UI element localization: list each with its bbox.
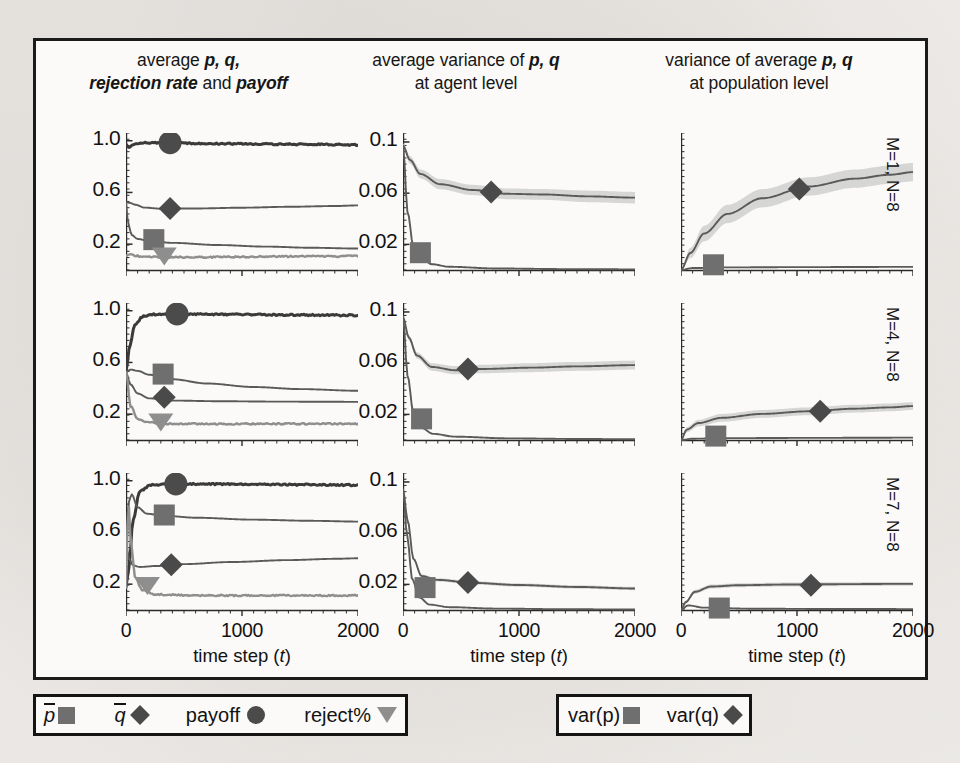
series-line-varp bbox=[403, 146, 635, 270]
legend-item-payoff: payoff bbox=[186, 704, 265, 727]
y-tick-label: 0.6 bbox=[48, 177, 120, 201]
diamond-marker-icon bbox=[456, 571, 479, 594]
x-tick-label: 1000 bbox=[752, 619, 842, 642]
diamond-marker-icon bbox=[153, 386, 176, 409]
series-line-q-bar bbox=[126, 542, 358, 567]
plot-svg bbox=[403, 303, 635, 454]
circle-marker-icon bbox=[159, 133, 182, 154]
circle-marker-icon bbox=[166, 303, 189, 325]
series-line-varp bbox=[403, 317, 635, 439]
plot-panel-r1-c0 bbox=[126, 303, 358, 440]
legend-item-q-bar: q bbox=[114, 704, 146, 727]
plot-svg bbox=[681, 473, 913, 624]
y-tick-label: 0.06 bbox=[325, 518, 397, 542]
circle-marker-icon bbox=[164, 473, 187, 495]
diamond-marker-icon bbox=[723, 705, 743, 725]
triangle-down-marker-icon bbox=[377, 707, 397, 723]
plot-panel-r2-c1 bbox=[403, 473, 635, 610]
square-marker-icon bbox=[703, 254, 724, 275]
variance-legend: var(p) var(q) bbox=[556, 694, 752, 736]
square-marker-icon bbox=[411, 408, 432, 429]
square-marker-icon bbox=[709, 598, 730, 619]
diamond-marker-icon bbox=[799, 574, 822, 597]
square-marker-icon bbox=[410, 242, 431, 263]
diamond-marker-icon bbox=[159, 197, 182, 220]
legend-item-var-p: var(p) bbox=[568, 704, 640, 727]
y-tick-label: 0.06 bbox=[325, 178, 397, 202]
x-tick-label: 2000 bbox=[868, 619, 958, 642]
x-tick-label: 1000 bbox=[197, 619, 287, 642]
plot-panel-r2-c2 bbox=[681, 473, 913, 610]
plot-svg bbox=[126, 303, 358, 454]
series-line-varq bbox=[403, 490, 635, 589]
legend-label-payoff: payoff bbox=[186, 704, 240, 727]
square-marker-icon bbox=[705, 426, 726, 447]
y-tick-label: 0.06 bbox=[325, 348, 397, 372]
y-tick-label: 0.02 bbox=[325, 569, 397, 593]
y-tick-label: 1.0 bbox=[48, 296, 120, 320]
plot-svg bbox=[681, 133, 913, 284]
series-line-payoff bbox=[126, 314, 358, 372]
legend-item-p-bar: p bbox=[44, 704, 75, 727]
plot-panel-r1-c1 bbox=[403, 303, 635, 440]
confidence-band bbox=[681, 163, 913, 270]
circle-marker-icon bbox=[247, 706, 265, 724]
plot-svg bbox=[403, 473, 635, 624]
square-marker-icon bbox=[154, 505, 175, 526]
y-tick-label: 0.2 bbox=[48, 569, 120, 593]
x-tick-label: 0 bbox=[358, 619, 448, 642]
square-marker-icon bbox=[623, 707, 640, 724]
column-header-average-pq: average p, q, rejection rate and payoff bbox=[56, 49, 321, 95]
y-tick-label: 0.1 bbox=[325, 297, 397, 321]
x-tick-label: 1000 bbox=[474, 619, 564, 642]
y-tick-label: 0.1 bbox=[325, 467, 397, 491]
legend-label-p-bar: p bbox=[44, 704, 55, 727]
square-marker-icon bbox=[153, 364, 174, 385]
y-tick-label: 0.1 bbox=[325, 127, 397, 151]
confidence-band bbox=[403, 488, 635, 590]
legend-label-reject: reject% bbox=[304, 704, 371, 727]
row-label-m7: M=7, N=8 bbox=[882, 477, 902, 552]
legend-label-var-q: var(q) bbox=[667, 704, 719, 727]
legend-item-reject: reject% bbox=[304, 704, 397, 727]
square-marker-icon bbox=[58, 707, 75, 724]
diamond-marker-icon bbox=[130, 705, 150, 725]
diamond-marker-icon bbox=[160, 553, 183, 576]
row-label-m1: M=1, N=8 bbox=[882, 137, 902, 212]
series-line-varp bbox=[403, 490, 635, 610]
plot-panel-r2-c0 bbox=[126, 473, 358, 610]
legend-label-q-bar: q bbox=[114, 704, 125, 727]
x-tick-label: 0 bbox=[81, 619, 171, 642]
y-tick-label: 0.2 bbox=[48, 399, 120, 423]
square-marker-icon bbox=[415, 577, 436, 598]
x-axis-title: time step (t) bbox=[661, 645, 933, 667]
y-tick-label: 0.02 bbox=[325, 229, 397, 253]
plot-panel-r0-c0 bbox=[126, 133, 358, 270]
legend-item-var-q: var(q) bbox=[667, 704, 740, 727]
diamond-marker-icon bbox=[809, 400, 832, 423]
plot-panel-r0-c2 bbox=[681, 133, 913, 270]
y-tick-label: 1.0 bbox=[48, 126, 120, 150]
y-tick-label: 0.2 bbox=[48, 229, 120, 253]
plot-svg bbox=[403, 133, 635, 284]
legend-label-var-p: var(p) bbox=[568, 704, 620, 727]
plot-svg bbox=[126, 473, 358, 624]
plot-svg bbox=[681, 303, 913, 454]
x-axis-title: time step (t) bbox=[383, 645, 655, 667]
plot-panel-r0-c1 bbox=[403, 133, 635, 270]
y-tick-label: 0.6 bbox=[48, 517, 120, 541]
x-axis-title: time step (t) bbox=[106, 645, 378, 667]
column-header-agent-variance: average variance of p, q at agent level bbox=[326, 49, 606, 95]
diamond-marker-icon bbox=[480, 180, 503, 203]
y-tick-label: 1.0 bbox=[48, 466, 120, 490]
column-header-population-variance: variance of average p, q at population l… bbox=[614, 49, 904, 95]
figure-frame: average p, q, rejection rate and payoff … bbox=[33, 38, 928, 680]
plot-svg bbox=[126, 133, 358, 284]
x-tick-label: 0 bbox=[636, 619, 726, 642]
series-legend: p q payoff reject% bbox=[33, 694, 408, 736]
row-label-m4: M=4, N=8 bbox=[882, 307, 902, 382]
plot-panel-r1-c2 bbox=[681, 303, 913, 440]
square-marker-icon bbox=[143, 229, 164, 250]
y-tick-label: 0.02 bbox=[325, 399, 397, 423]
diamond-marker-icon bbox=[456, 357, 479, 380]
